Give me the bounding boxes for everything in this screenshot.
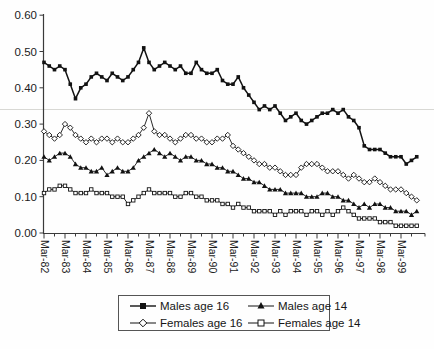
x-tick-label: Mar-96	[333, 240, 345, 273]
marker-point	[110, 71, 114, 75]
marker-point	[168, 191, 171, 194]
marker-point	[137, 61, 141, 65]
filled-square-marker-icon	[129, 301, 157, 311]
y-tick-label: 0.10	[15, 191, 37, 203]
marker-point	[341, 172, 346, 177]
marker-point	[283, 172, 288, 177]
marker-point	[363, 217, 366, 220]
marker-point	[263, 210, 266, 213]
marker-point	[226, 82, 230, 86]
marker-point	[184, 71, 188, 75]
marker-point	[99, 165, 104, 170]
marker-point	[263, 104, 267, 108]
marker-point	[325, 169, 330, 174]
chart-figure: 0.000.100.200.300.400.500.60Mar-82Mar-83…	[0, 0, 434, 349]
marker-point	[357, 217, 360, 220]
marker-point	[394, 224, 397, 227]
legend-label-males-age-14: Males age 14	[278, 300, 347, 312]
marker-point	[347, 210, 350, 213]
marker-point	[115, 165, 120, 170]
marker-point	[111, 195, 114, 198]
marker-point	[74, 97, 78, 101]
marker-point	[404, 190, 409, 195]
marker-point	[209, 140, 214, 145]
marker-point	[341, 108, 345, 112]
marker-point	[221, 79, 225, 83]
marker-point	[178, 158, 183, 163]
marker-point	[399, 224, 402, 227]
marker-point	[415, 224, 418, 227]
marker-point	[331, 213, 334, 216]
marker-point	[320, 111, 324, 115]
marker-point	[142, 46, 146, 50]
marker-point	[362, 179, 367, 184]
marker-point	[147, 61, 151, 65]
marker-point	[162, 132, 167, 137]
marker-point	[95, 71, 99, 75]
marker-point	[42, 191, 45, 194]
marker-point	[205, 71, 209, 75]
marker-point	[305, 122, 309, 126]
x-tick-label: Mar-90	[207, 240, 219, 273]
marker-point	[289, 210, 292, 213]
marker-point	[394, 155, 398, 159]
marker-point	[321, 213, 324, 216]
marker-point	[398, 187, 403, 192]
marker-point	[315, 210, 318, 213]
marker-point	[58, 64, 62, 68]
marker-point	[368, 148, 372, 152]
marker-point	[346, 176, 351, 181]
marker-point	[110, 169, 115, 174]
marker-point	[242, 206, 245, 209]
marker-point	[326, 111, 330, 115]
marker-point	[230, 143, 235, 148]
marker-point	[330, 169, 335, 174]
marker-point	[120, 140, 125, 145]
series-females-age-16	[41, 111, 419, 204]
marker-point	[231, 82, 235, 86]
marker-point	[336, 111, 340, 115]
marker-point	[252, 210, 255, 213]
marker-point	[352, 213, 355, 216]
marker-point	[89, 136, 94, 141]
marker-point	[393, 187, 398, 192]
marker-point	[63, 184, 66, 187]
series-line-females-age-16	[44, 113, 417, 200]
x-tick-label: Mar-95	[312, 240, 324, 273]
x-tick-label: Mar-99	[396, 240, 408, 273]
marker-point	[52, 154, 57, 159]
marker-point	[83, 140, 88, 145]
marker-point	[52, 136, 57, 141]
marker-point	[383, 183, 388, 188]
marker-point	[357, 126, 361, 130]
marker-point	[195, 195, 198, 198]
marker-point	[273, 104, 277, 108]
marker-point	[53, 188, 56, 191]
marker-point	[284, 119, 288, 123]
marker-point	[90, 188, 93, 191]
marker-point	[278, 111, 282, 115]
marker-point	[246, 154, 251, 159]
marker-point	[389, 155, 393, 159]
marker-point	[384, 220, 387, 223]
marker-point	[362, 144, 366, 148]
y-tick-label: 0.20	[15, 154, 37, 166]
legend-entry-females-age-16: Females age 16	[129, 317, 247, 329]
marker-point	[53, 68, 57, 72]
marker-point	[356, 205, 361, 210]
marker-point	[94, 140, 99, 145]
marker-point	[304, 161, 309, 166]
marker-point	[110, 140, 115, 145]
marker-point	[210, 199, 213, 202]
open-square-marker-icon	[247, 318, 275, 328]
marker-point	[100, 191, 103, 194]
y-tick-label: 0.40	[15, 82, 37, 94]
marker-point	[62, 121, 67, 126]
marker-point	[342, 206, 345, 209]
marker-point	[294, 111, 298, 115]
y-tick-label: 0.60	[15, 9, 37, 21]
marker-point	[278, 169, 283, 174]
marker-point	[121, 195, 124, 198]
marker-point	[378, 220, 381, 223]
marker-point	[216, 199, 219, 202]
